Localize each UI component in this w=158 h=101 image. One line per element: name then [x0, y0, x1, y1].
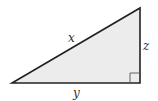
triangle-shape — [12, 8, 140, 83]
right-triangle-diagram: x z y — [0, 0, 158, 101]
hypotenuse-label-x: x — [68, 31, 75, 45]
side-label-z: z — [142, 39, 150, 53]
base-label-y: y — [72, 86, 80, 100]
